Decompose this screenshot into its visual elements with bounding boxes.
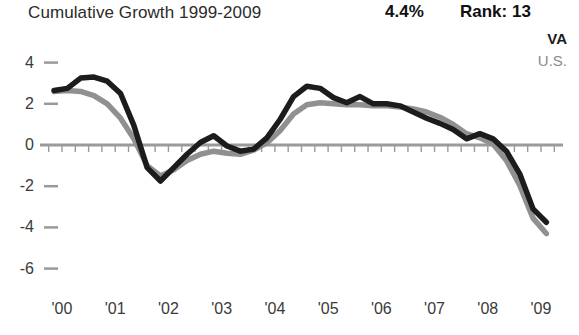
x-axis-tick-label: '08	[466, 300, 510, 318]
y-axis-tick-label: 2	[8, 95, 34, 113]
x-axis-tick-label: '05	[306, 300, 350, 318]
x-axis-tick-label: '00	[40, 300, 84, 318]
y-axis-tick-label: 0	[8, 136, 34, 154]
x-axis-tick-label: '02	[146, 300, 190, 318]
y-axis-tick-label: -6	[8, 260, 34, 278]
chart-svg	[0, 0, 579, 335]
growth-chart-panel: Cumulative Growth 1999-2009 4.4% Rank: 1…	[0, 0, 579, 335]
y-axis-tick-label: -4	[8, 218, 34, 236]
x-axis-tick-label: '06	[359, 300, 403, 318]
x-axis-tick-label: '01	[93, 300, 137, 318]
y-axis-tick-label: -2	[8, 177, 34, 195]
x-axis-tick-label: '03	[200, 300, 244, 318]
x-minor-tick-marks	[49, 146, 555, 152]
x-axis-tick-label: '09	[519, 300, 563, 318]
y-axis-tick-label: 4	[8, 54, 34, 72]
x-axis-tick-label: '04	[253, 300, 297, 318]
x-axis-tick-label: '07	[413, 300, 457, 318]
chart-plot-area	[0, 0, 579, 335]
